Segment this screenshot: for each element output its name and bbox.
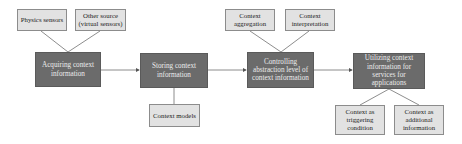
context-additional-label: Context as additional information [395, 108, 443, 131]
context-triggering-label: Context as triggering condition [336, 108, 384, 131]
other-source-box: Other source (virtual sensors) [75, 9, 126, 31]
acquiring-context-label: Acquiring context information [36, 61, 100, 78]
controlling-abstraction-box: Controlling abstraction level of context… [247, 52, 314, 88]
context-interpretation-label: Context interpretation [286, 12, 334, 28]
utilizing-context-box: Utilizing context information for servic… [353, 53, 425, 89]
context-models-box: Context models [149, 104, 200, 127]
context-models-label: Context models [151, 112, 198, 120]
physics-sensors-label: Physics sensors [19, 16, 65, 24]
storing-context-label: Storing context information [141, 62, 207, 79]
other-source-label: Other source (virtual sensors) [76, 12, 125, 28]
context-triggering-box: Context as triggering condition [335, 105, 385, 135]
context-aggregation-label: Context aggregation [226, 12, 274, 28]
acquiring-context-box: Acquiring context information [35, 52, 101, 87]
utilizing-context-label: Utilizing context information for servic… [354, 54, 424, 87]
context-aggregation-box: Context aggregation [225, 9, 275, 31]
context-additional-box: Context as additional information [394, 105, 444, 135]
storing-context-box: Storing context information [140, 53, 208, 88]
physics-sensors-box: Physics sensors [17, 9, 67, 31]
context-interpretation-box: Context interpretation [285, 9, 335, 31]
controlling-abstraction-label: Controlling abstraction level of context… [248, 58, 313, 83]
